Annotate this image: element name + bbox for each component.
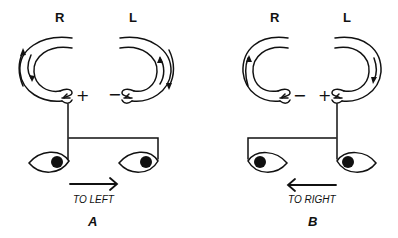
crossed-pathway (248, 138, 336, 159)
flow-arrow-inner (28, 55, 31, 78)
arrowhead-down-icon (29, 75, 35, 82)
sign-right: + (76, 86, 89, 105)
pupil (254, 156, 266, 168)
arrowhead-down-icon (166, 83, 172, 90)
right-eye (337, 153, 376, 173)
panel-caption: B (308, 214, 317, 229)
sign-left: + (318, 86, 331, 105)
right-semicircular-canal (19, 37, 72, 103)
sign-left: − (108, 85, 121, 104)
canal-label-right: R (55, 10, 65, 25)
eye-movement-arrow-right (70, 178, 117, 190)
left-semicircular-canal (332, 37, 381, 103)
panel-caption: A (87, 214, 97, 229)
panel-a: R L + − (19, 10, 173, 229)
canal-label-right: R (270, 10, 280, 25)
panel-b: R L − + (243, 10, 381, 229)
right-eye (119, 152, 158, 172)
arrowhead-down-icon (371, 77, 377, 84)
crossed-pathway (69, 138, 158, 159)
sign-right: − (293, 86, 306, 105)
arrowhead-up-icon (157, 56, 163, 63)
movement-label: TO RIGHT (288, 194, 336, 205)
pupil (51, 156, 63, 168)
canal-label-left: L (343, 10, 351, 25)
vor-diagram: R L + − (0, 0, 398, 238)
left-eye (248, 153, 287, 173)
movement-label: TO LEFT (73, 194, 115, 205)
left-eye (29, 152, 69, 172)
pupil (140, 156, 152, 168)
pupil (342, 156, 354, 168)
arrowhead-up-icon (246, 55, 252, 62)
eye-movement-arrow-left (288, 179, 336, 191)
canal-label-left: L (129, 10, 137, 25)
right-semicircular-canal (243, 37, 290, 103)
left-semicircular-canal (120, 37, 174, 103)
